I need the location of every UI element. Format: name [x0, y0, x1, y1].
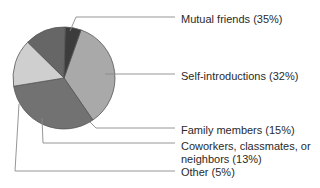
- label-self-introductions: Self-introductions (32%): [181, 70, 298, 82]
- pie-slices: [13, 27, 115, 129]
- label-coworkers-line2: neighbors (13%): [181, 153, 262, 165]
- label-other: Other (5%): [181, 166, 235, 178]
- label-family-members: Family members (15%): [181, 124, 295, 136]
- pie-chart: [0, 0, 320, 188]
- label-coworkers-line1: Coworkers, classmates, or: [181, 140, 311, 152]
- leader-line-family-members: [90, 122, 175, 128]
- leader-line-mutual-friends: [70, 17, 175, 31]
- label-mutual-friends: Mutual friends (35%): [181, 13, 283, 25]
